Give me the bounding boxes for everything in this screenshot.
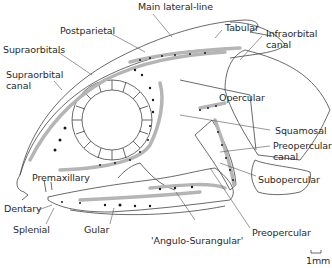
skull-diagram: Main lateral-line Postparietal Tabular I…	[0, 0, 332, 268]
label-dentary: Dentary	[4, 204, 42, 214]
label-preopercular-canal-line2: canal	[273, 152, 298, 162]
label-premaxillary: Premaxillary	[32, 173, 90, 183]
label-opercular: Opercular	[219, 93, 265, 103]
label-postparietal: Postparietal	[60, 26, 115, 36]
scale-bar-label: 1mm	[306, 256, 330, 266]
label-main-lateral-line: Main lateral-line	[138, 2, 213, 12]
label-supraorbitals: Supraorbitals	[3, 45, 65, 55]
label-squamosal: Squamosal	[275, 126, 326, 136]
label-infraorbital-canal: Infraorbital	[266, 29, 317, 39]
label-subopercular: Subopercular	[258, 175, 320, 185]
label-splenial: Splenial	[13, 225, 50, 235]
label-gular: Gular	[84, 225, 109, 235]
label-preopercular-canal: Preopercular	[273, 141, 332, 151]
label-supraorbital-canal: Supraorbital	[6, 70, 63, 80]
label-tabular: Tabular	[225, 23, 259, 33]
label-preopercular: Preopercular	[252, 228, 311, 238]
label-angulo-surangular: 'Angulo-Surangular'	[151, 236, 243, 246]
label-supraorbital-canal-line2: canal	[6, 81, 31, 91]
label-infraorbital-canal-line2: canal	[266, 40, 291, 50]
